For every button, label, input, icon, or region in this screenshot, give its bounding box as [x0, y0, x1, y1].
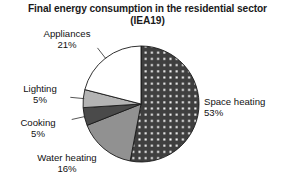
leader-line-cooking	[72, 116, 86, 119]
slice-label-cooking-name: Cooking	[4, 117, 72, 128]
slice-label-water-heating-name: Water heating	[10, 152, 124, 163]
slice-label-appliances-value: 21%	[24, 39, 110, 50]
slice-label-space-heating-value: 53%	[204, 107, 294, 118]
slice-label-lighting: Lighting 5%	[6, 83, 74, 106]
slice-label-cooking-value: 5%	[4, 128, 72, 139]
slice-label-space-heating-name: Space heating	[204, 96, 294, 107]
slice-label-appliances: Appliances 21%	[24, 28, 110, 51]
slice-label-appliances-name: Appliances	[24, 28, 110, 39]
pie-chart-figure: Final energy consumption in the resident…	[0, 0, 295, 193]
slice-label-lighting-value: 5%	[6, 94, 74, 105]
slice-label-water-heating: Water heating 16%	[10, 152, 124, 175]
slice-label-lighting-name: Lighting	[6, 83, 74, 94]
slice-label-cooking: Cooking 5%	[4, 117, 72, 140]
slice-label-water-heating-value: 16%	[10, 163, 124, 174]
slice-label-space-heating: Space heating 53%	[204, 96, 294, 119]
